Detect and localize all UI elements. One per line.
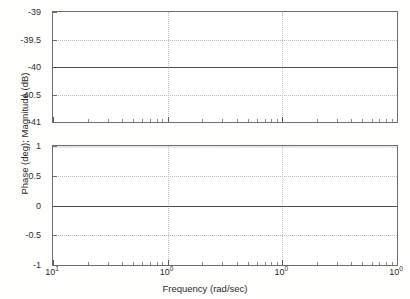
y-tick-mark [53, 146, 57, 147]
x-tick-minor [237, 119, 238, 122]
x-tick-minor [317, 262, 318, 265]
data-trace-phase [53, 206, 397, 207]
x-tick-minor [202, 119, 203, 122]
x-tick-minor [372, 119, 373, 122]
x-tick-minor [237, 262, 238, 265]
x-tick-major [282, 117, 283, 122]
x-tick-minor [222, 119, 223, 122]
x-tick-minor [379, 119, 380, 122]
x-tick-minor [133, 262, 134, 265]
data-trace-magnitude [53, 67, 397, 68]
x-tick-minor [202, 262, 203, 265]
x-tick-minor [351, 262, 352, 265]
x-tick-major [168, 117, 169, 122]
x-tick-minor [222, 262, 223, 265]
x-tick-minor [122, 119, 123, 122]
gridline-horizontal [53, 95, 397, 96]
x-tick-minor [122, 262, 123, 265]
x-tick-major [282, 260, 283, 265]
x-tick-minor [265, 262, 266, 265]
chroma-fringe-artifact [53, 146, 397, 148]
x-tick-minor [277, 262, 278, 265]
x-tick-minor [133, 119, 134, 122]
x-tick-minor [108, 262, 109, 265]
x-tick-minor [379, 262, 380, 265]
x-tick-minor [248, 262, 249, 265]
x-tick-minor [162, 119, 163, 122]
x-tick-minor [88, 262, 89, 265]
magnitude-axes [52, 11, 398, 123]
y-tick-label: -40 [28, 63, 46, 72]
y-tick-label: 0 [36, 201, 46, 210]
gridline-horizontal [53, 40, 397, 41]
x-tick-minor [157, 119, 158, 122]
x-tick-minor [257, 119, 258, 122]
phase-axes [52, 145, 398, 266]
x-tick-major [53, 260, 54, 265]
x-tick-minor [157, 262, 158, 265]
x-tick-label: 100 [389, 268, 403, 277]
x-tick-major [168, 260, 169, 265]
y-tick-label: 0.5 [28, 171, 46, 180]
x-tick-minor [257, 262, 258, 265]
x-tick-label: 100 [275, 268, 289, 277]
x-tick-minor [271, 262, 272, 265]
y-tick-mark [53, 95, 57, 96]
x-tick-minor [386, 262, 387, 265]
x-tick-major [397, 117, 398, 122]
x-tick-minor [392, 119, 393, 122]
y-axis-title: Phase (deg); Magnitude (dB) [19, 24, 30, 244]
x-tick-minor [337, 262, 338, 265]
x-tick-minor [337, 119, 338, 122]
x-tick-minor [150, 262, 151, 265]
y-tick-label: -1 [33, 261, 46, 270]
x-tick-minor [351, 119, 352, 122]
x-tick-minor [142, 262, 143, 265]
x-tick-major [397, 260, 398, 265]
gridline-horizontal [53, 235, 397, 236]
x-tick-minor [317, 119, 318, 122]
x-tick-minor [392, 262, 393, 265]
x-tick-minor [271, 119, 272, 122]
x-tick-minor [150, 119, 151, 122]
x-tick-minor [386, 119, 387, 122]
x-tick-minor [108, 119, 109, 122]
x-axis-title: Frequency (rad/sec) [0, 283, 410, 294]
x-tick-minor [277, 119, 278, 122]
x-tick-minor [88, 119, 89, 122]
x-tick-minor [372, 262, 373, 265]
y-tick-mark [53, 235, 57, 236]
bode-plot-figure: -39-39.5-40-40.5-41 10.50-0.5-1 10110010… [0, 0, 410, 299]
y-tick-label: -41 [28, 118, 46, 127]
y-tick-mark [53, 176, 57, 177]
y-tick-label: -39 [28, 8, 46, 17]
x-tick-minor [248, 119, 249, 122]
x-tick-major [53, 117, 54, 122]
x-tick-minor [162, 262, 163, 265]
y-tick-mark [53, 12, 57, 13]
x-tick-minor [142, 119, 143, 122]
x-tick-minor [362, 119, 363, 122]
y-tick-mark [53, 122, 57, 123]
x-tick-minor [362, 262, 363, 265]
y-tick-mark [53, 40, 57, 41]
x-tick-label: 100 [160, 268, 174, 277]
y-tick-label: 1 [36, 142, 46, 151]
x-tick-minor [265, 119, 266, 122]
x-tick-label: 101 [45, 268, 59, 277]
gridline-horizontal [53, 176, 397, 177]
